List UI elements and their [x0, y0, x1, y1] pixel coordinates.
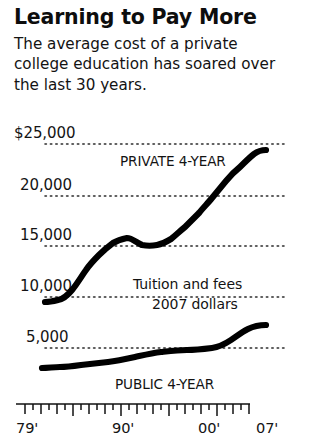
series-label-public-4-year: PUBLIC 4-YEAR	[115, 376, 214, 392]
x-tick-label-07: 07'	[256, 419, 278, 436]
series-label-private-4-year: PRIVATE 4-YEAR	[120, 153, 226, 169]
gridlines	[45, 144, 286, 348]
x-tick-label-79: 79'	[16, 419, 38, 436]
x-axis-ticks	[25, 404, 249, 416]
units-note-line-2: 2007 dollars	[152, 296, 238, 312]
x-tick-label-90: 90'	[112, 419, 134, 436]
chart-canvas: $25,000 20,000 15,000 10,000 5,000	[0, 118, 310, 448]
page-title: Learning to Pay More	[14, 7, 257, 29]
page-subtitle: The average cost of a private college ed…	[14, 34, 282, 95]
chart-page: Learning to Pay More The average cost of…	[0, 0, 310, 448]
units-note-line-1: Tuition and fees	[133, 276, 242, 292]
series-line-public-4-year	[42, 325, 266, 368]
x-tick-label-00: 00'	[198, 419, 220, 436]
